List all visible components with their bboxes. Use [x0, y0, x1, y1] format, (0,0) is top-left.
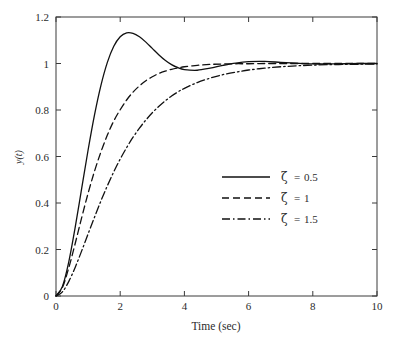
legend-entry: ζ=1 [222, 191, 310, 205]
x-tick-label: 8 [310, 300, 316, 312]
y-tick-label: 0.6 [35, 151, 49, 163]
y-axis-label: y(t) [13, 149, 25, 165]
y-tick-label: 0.8 [35, 104, 49, 116]
x-tick-label: 0 [53, 300, 59, 312]
legend-symbol: ζ [281, 170, 288, 184]
y-axis-ticks [56, 17, 377, 296]
curve-zeta-1 [56, 63, 377, 296]
step-response-chart: 0246810 00.20.40.60.811.2 ζ=0.5ζ=1ζ=1.5 … [0, 0, 420, 344]
y-tick-label: 0 [44, 290, 50, 302]
x-tick-label: 4 [182, 300, 188, 312]
x-axis-label: Time (sec) [191, 320, 240, 333]
y-tick-label: 0.4 [35, 197, 49, 209]
x-axis-tick-labels: 0246810 [53, 300, 383, 312]
legend-equals: = [294, 192, 300, 204]
y-tick-label: 0.2 [35, 244, 49, 256]
y-tick-label: 1 [44, 58, 50, 70]
x-tick-label: 10 [372, 300, 384, 312]
x-axis-ticks [56, 17, 377, 296]
plot-frame [56, 17, 377, 296]
legend-value: 0.5 [304, 171, 318, 183]
y-axis-tick-labels: 00.20.40.60.811.2 [35, 11, 49, 302]
legend-symbol: ζ [281, 191, 288, 205]
legend-entry: ζ=1.5 [222, 212, 318, 226]
curve-zeta-0-5 [56, 33, 377, 296]
x-tick-label: 6 [246, 300, 252, 312]
chart-legend: ζ=0.5ζ=1ζ=1.5 [222, 170, 318, 226]
y-tick-label: 1.2 [35, 11, 49, 23]
x-tick-label: 2 [117, 300, 123, 312]
legend-value: 1.5 [304, 213, 318, 225]
legend-value: 1 [304, 192, 310, 204]
legend-equals: = [294, 171, 300, 183]
figure-canvas: 0246810 00.20.40.60.811.2 ζ=0.5ζ=1ζ=1.5 … [0, 0, 420, 344]
legend-equals: = [294, 213, 300, 225]
legend-symbol: ζ [281, 212, 288, 226]
legend-entry: ζ=0.5 [222, 170, 318, 184]
data-curves [56, 33, 377, 296]
curve-zeta-1-5 [56, 64, 377, 296]
